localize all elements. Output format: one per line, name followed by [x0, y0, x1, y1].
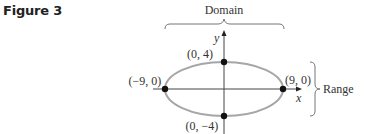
y-axis-label: y — [213, 31, 220, 45]
point-top-label: (0, 4) — [187, 47, 213, 61]
point-right-label: (9, 0) — [285, 73, 311, 87]
domain-label: Domain — [205, 3, 244, 17]
ellipse-diagram: Domain Range x y (0, 4) (0, −4) (−9, 0) … — [0, 0, 365, 134]
range-brace — [310, 62, 320, 116]
domain-brace — [165, 19, 284, 29]
point-top — [221, 59, 227, 65]
x-axis-label: x — [295, 91, 302, 105]
point-left-label: (−9, 0) — [129, 74, 162, 88]
y-axis-arrow-icon — [222, 30, 227, 36]
range-label: Range — [323, 82, 354, 96]
point-bottom-label: (0, −4) — [186, 119, 219, 133]
point-left — [162, 86, 168, 92]
point-bottom — [221, 113, 227, 119]
